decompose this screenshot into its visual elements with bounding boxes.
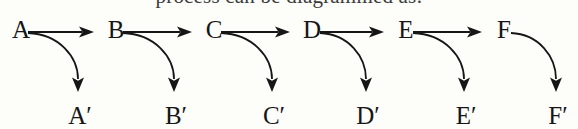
curved-arrow-d-to-d-prime bbox=[320, 33, 372, 92]
curved-arrow-c-to-c-prime bbox=[221, 33, 278, 92]
arrow-d-to-e bbox=[320, 26, 384, 37]
image-labels-group: A′B′C′D′E′F′ bbox=[68, 102, 567, 129]
curve-shaft bbox=[511, 33, 556, 79]
arrowhead-down-icon bbox=[168, 78, 180, 93]
image-label-f-prime: F′ bbox=[548, 102, 567, 129]
arrow-c-to-d bbox=[221, 26, 290, 37]
image-label-c-prime: C′ bbox=[263, 102, 285, 129]
node-label-b: B bbox=[108, 16, 125, 43]
arrowhead-down-icon bbox=[550, 78, 562, 93]
curve-shaft bbox=[221, 33, 272, 79]
arrowhead-down-icon bbox=[360, 78, 372, 93]
arrow-e-to-f bbox=[413, 26, 482, 37]
chain-diagram: ABCDEF A′B′C′D′E′F′ bbox=[0, 0, 578, 129]
node-label-e: E bbox=[398, 16, 413, 43]
arrow-b-to-c bbox=[123, 26, 192, 37]
arrowhead-down-icon bbox=[458, 78, 470, 93]
curve-shaft bbox=[413, 33, 464, 79]
curve-shaft bbox=[28, 33, 78, 79]
arrow-a-to-b bbox=[28, 26, 94, 37]
image-label-a-prime: A′ bbox=[68, 102, 92, 129]
node-label-c: C bbox=[206, 16, 223, 43]
node-label-a: A bbox=[12, 16, 30, 43]
diagram-page: process can be diagrammed as: ABCDEF A′B… bbox=[0, 0, 578, 129]
arrowhead-down-icon bbox=[266, 78, 278, 93]
image-label-e-prime: E′ bbox=[456, 102, 477, 129]
curved-arrow-a-to-a-prime bbox=[28, 33, 84, 92]
curved-arrow-e-to-e-prime bbox=[413, 33, 470, 92]
straight-arrows-group bbox=[28, 26, 482, 37]
node-label-f: F bbox=[497, 16, 511, 43]
image-label-d-prime: D′ bbox=[356, 102, 380, 129]
node-label-d: D bbox=[303, 16, 321, 43]
arrowhead-down-icon bbox=[72, 78, 84, 93]
image-label-b-prime: B′ bbox=[165, 102, 187, 129]
curved-arrow-f-to-f-prime bbox=[511, 33, 562, 92]
curve-shaft bbox=[320, 33, 366, 79]
curve-shaft bbox=[123, 33, 174, 79]
curved-arrow-b-to-b-prime bbox=[123, 33, 180, 92]
